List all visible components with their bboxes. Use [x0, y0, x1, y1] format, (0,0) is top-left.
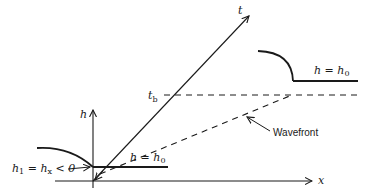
right-h0-label: h = h0 — [314, 64, 349, 78]
h-axis-label: h — [80, 108, 87, 121]
tb-label: tb — [148, 89, 158, 104]
x-axis-label: x — [318, 174, 325, 187]
origin-arrow — [95, 171, 103, 180]
t-axis — [93, 16, 249, 181]
shock-wave-diagram: x h t tb Wavefront h = h0 h1 = hx < 0 h … — [0, 0, 374, 192]
wavefront-arrow — [247, 117, 270, 131]
wavefront-line — [100, 95, 292, 174]
wavefront-label: Wavefront — [273, 127, 318, 138]
t-axis-label: t — [238, 4, 243, 17]
h1-annotation: h1 = hx < 0 — [12, 162, 75, 176]
left-h0-label: h = h0 — [130, 151, 165, 165]
right-profile-curve — [258, 51, 293, 81]
